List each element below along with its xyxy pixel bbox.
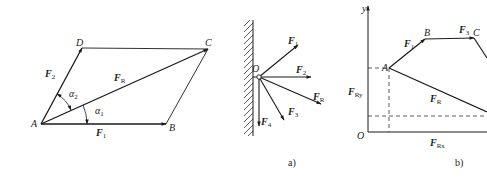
edge-cb [166,49,208,124]
y-axis-label: y [361,3,367,14]
force-frx-label-b: FRx [429,137,445,150]
angle-alpha2-label: α2 [69,88,78,101]
point-c-label: C [205,37,212,48]
wall-hatching [244,20,253,136]
point-a-label: A [30,118,38,129]
force-fr-arrow-a [259,77,321,104]
force-f3-label-a: F3 [287,106,299,119]
edge-dc [82,48,208,49]
force-f2-label-a: F2 [295,64,307,77]
force-f1-arrow-a [259,45,298,77]
force-f4-label-a: F4 [260,116,272,129]
point-d-label: D [75,37,84,48]
force-fr-arrow [41,49,208,124]
force-f3-segment-b [474,38,487,58]
force-fr-label-a: FR [312,91,325,104]
origin-o-label: O [252,63,259,74]
force-f2-label: F2 [44,68,56,81]
force-f3-arrow-a [259,77,284,120]
force-fry-label-b: FRy [347,86,363,99]
force-fr-label: FR [113,72,126,85]
force-f2-arrow [41,48,82,124]
point-b-label-b: B [424,27,430,38]
force-fr-label-b: FR [429,93,442,106]
force-diagrams-figure: D C A B F2 FR F1 α2 α1 O F1 F2 FR F3 F4 … [0,0,487,178]
force-f2-segment-b [425,38,474,39]
point-a-label-b: A [381,62,389,73]
caption-b: b) [455,157,463,169]
point-b-label: B [169,122,175,133]
origin-point-o [257,75,261,79]
point-c-label-b: C [473,27,480,38]
force-f3-label-b: F3 [458,24,470,37]
angle-alpha1-arc [83,105,87,124]
force-f1-label-a: F1 [287,35,299,48]
concurrent-forces-diagram-a: O F1 F2 FR F3 F4 a) [244,20,325,169]
origin-o-label-b: O [357,130,364,141]
parallelogram-diagram: D C A B F2 FR F1 α2 α1 [30,37,212,140]
force-f1-label: F1 [95,127,107,140]
force-polygon-diagram-b: y O A B C F1 F3 FR FRy FRx b) [347,3,487,169]
angle-alpha1-label: α1 [95,105,104,118]
force-f1-label-b: F1 [403,38,415,51]
caption-a: a) [288,157,296,169]
